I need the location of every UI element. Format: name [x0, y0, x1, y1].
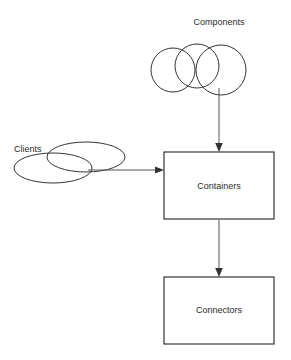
clients-label: Clients — [14, 144, 42, 154]
containers-node[interactable]: Containers — [164, 152, 274, 219]
client-ellipse-lower — [14, 153, 92, 183]
component-circle-middle — [175, 44, 219, 88]
arrow-head-right — [155, 166, 164, 173]
arrow-components-to-containers — [215, 88, 223, 152]
connectors-node[interactable]: Connectors — [164, 277, 274, 344]
component-circle-left — [151, 48, 195, 92]
clients-node[interactable]: Clients — [14, 142, 125, 183]
containers-label: Containers — [197, 181, 241, 191]
arrow-head-down — [215, 143, 223, 152]
client-ellipse-upper — [47, 142, 125, 172]
arrow-clients-to-containers — [88, 166, 164, 173]
arrow-head-down — [215, 268, 223, 277]
arrow-containers-to-connectors — [215, 220, 223, 277]
diagram-canvas: Components Clients Containers — [0, 0, 291, 360]
components-label: Components — [193, 17, 245, 27]
component-circle-right — [196, 45, 246, 95]
diagram-svg: Components Clients Containers — [0, 0, 291, 360]
components-node[interactable]: Components — [151, 17, 246, 95]
connectors-label: Connectors — [196, 305, 243, 315]
